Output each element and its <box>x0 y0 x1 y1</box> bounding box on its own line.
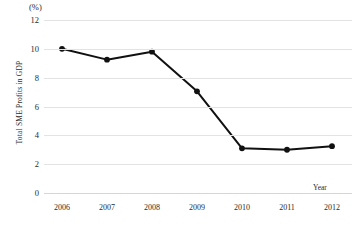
gridline-y-6 <box>44 107 352 108</box>
x-tick-label: 2011 <box>279 203 295 212</box>
gridline-y-2 <box>44 164 352 165</box>
line-chart: (%) Total SME Profits in GDP 02468101220… <box>0 0 362 227</box>
x-tick-label: 2012 <box>324 203 340 212</box>
y-tick-label: 0 <box>35 188 39 198</box>
gridline-y-0 <box>44 193 352 194</box>
y-tick-label: 12 <box>31 15 40 25</box>
x-axis-title: Year <box>313 183 327 192</box>
data-point-marker <box>239 145 245 151</box>
x-tick-label: 2008 <box>144 203 160 212</box>
data-point-marker <box>329 143 335 149</box>
y-tick-label: 2 <box>35 159 39 169</box>
y-tick-label: 4 <box>35 130 39 140</box>
x-tick-label: 2007 <box>99 203 115 212</box>
y-tick-label: 6 <box>35 102 39 112</box>
data-point-marker <box>104 57 110 63</box>
x-tick-label: 2009 <box>189 203 205 212</box>
plot-area: 0246810122006200720082009201020112012 <box>44 20 352 193</box>
gridline-y-8 <box>44 78 352 79</box>
y-axis-unit-label: (%) <box>29 2 42 12</box>
data-point-marker <box>194 88 200 94</box>
y-tick-label: 10 <box>31 44 40 54</box>
y-axis-title: Total SME Profits in GDP <box>15 38 24 168</box>
x-tick-label: 2010 <box>234 203 250 212</box>
gridline-y-12 <box>44 20 352 21</box>
data-point-marker <box>284 147 290 153</box>
y-tick-label: 8 <box>35 73 39 83</box>
gridline-y-10 <box>44 49 352 50</box>
gridline-y-4 <box>44 135 352 136</box>
x-tick-label: 2006 <box>54 203 70 212</box>
